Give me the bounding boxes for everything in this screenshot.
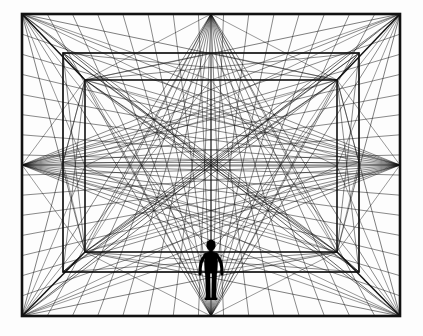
- silhouette-torso: [204, 252, 217, 274]
- silhouette-leg-right: [212, 273, 217, 299]
- silhouette-feet: [205, 298, 218, 300]
- perspective-room-illustration: [0, 0, 423, 336]
- silhouette-leg-left: [205, 273, 210, 299]
- drawing-canvas: [0, 0, 423, 336]
